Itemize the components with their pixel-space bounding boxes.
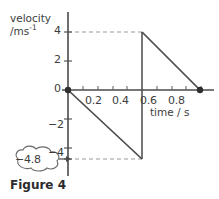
y-axis-unit-exponent: -1 xyxy=(29,23,36,32)
series-rise-line xyxy=(142,32,200,90)
y-tick-label-minus-2: −2 xyxy=(48,119,64,131)
y-tick-label-2: 2 xyxy=(54,54,61,66)
x-tick-label-0-6: 0.6 xyxy=(140,95,157,107)
x-tick-label-0-8: 0.8 xyxy=(168,95,185,107)
x-tick-label-0-4: 0.4 xyxy=(112,95,129,107)
y-axis-title: velocity /ms-1 xyxy=(10,13,51,37)
y-tick-label-4: 4 xyxy=(54,25,61,37)
y-axis-title-unit: /ms-1 xyxy=(10,24,51,37)
x-tick-label-0-2: 0.2 xyxy=(85,95,102,107)
y-axis-unit-prefix: /ms xyxy=(10,25,29,37)
y-tick-label-0: 0 xyxy=(54,83,61,95)
marker-origin xyxy=(65,87,71,93)
y-tick-label-minus-4: −4 xyxy=(48,147,64,159)
marker-end xyxy=(197,87,203,93)
callout-value-label: −4.8 xyxy=(15,154,41,166)
figure-caption: Figure 4 xyxy=(10,178,66,192)
series-fall-line xyxy=(68,90,142,159)
velocity-time-figure: velocity /ms-1 time / s 4 2 0 −2 −4 0.2 … xyxy=(0,0,219,199)
x-axis-title: time / s xyxy=(150,107,189,118)
